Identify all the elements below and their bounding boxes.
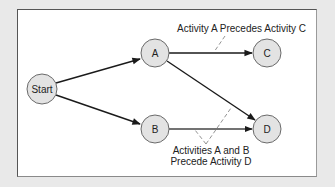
svg-text:D: D [263,124,270,135]
edge-start-to-a [56,59,140,83]
svg-text:B: B [152,124,159,135]
svg-text:C: C [263,48,270,59]
node-start: Start [27,74,57,104]
edge-a-to-d [167,61,255,120]
precedence-network: Start A B C D Activity A Precedes Activi… [0,0,335,187]
annotation-ab-precede-d-line1: Activities A and B [173,145,250,156]
node-d: D [253,115,281,143]
callout-line-a-c [214,36,225,52]
callout-line-ab-d-1 [195,130,206,144]
svg-text:Start: Start [31,84,52,95]
annotation-ab-precede-d-line2: Precede Activity D [170,156,251,167]
node-c: C [253,39,281,67]
node-a: A [141,39,169,67]
node-b: B [141,115,169,143]
edge-start-to-b [56,95,140,124]
callout-line-ab-d-2 [206,108,231,144]
annotation-a-precedes-c: Activity A Precedes Activity C [177,23,306,34]
svg-text:A: A [152,48,159,59]
